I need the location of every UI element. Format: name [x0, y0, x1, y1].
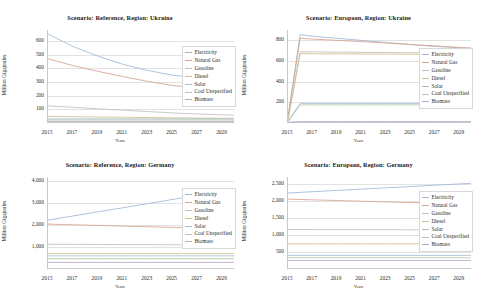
y-tick-label: 4,000 [32, 179, 44, 184]
legend-item[interactable]: Gasoline [185, 65, 232, 72]
x-axis-ticks: 20152017201920212023202520272029 [287, 129, 471, 137]
legend-swatch-icon [185, 241, 192, 242]
legend-swatch-icon [185, 52, 192, 53]
legend-item[interactable]: Gasoline [422, 67, 469, 74]
x-tick-label: 2015 [42, 275, 53, 281]
legend-item[interactable]: Solar [422, 83, 469, 90]
legend-swatch-icon [185, 218, 192, 219]
y-tick-label: 2,500 [272, 181, 284, 186]
legend-item[interactable]: Natural Gas [422, 202, 469, 209]
legend-swatch-icon [185, 92, 192, 93]
legend-item[interactable]: Diesel [422, 75, 469, 82]
legend-item[interactable]: Gasoline [422, 210, 469, 217]
legend-label: Natural Gas [431, 59, 457, 66]
legend-item[interactable]: Electricity [422, 194, 469, 201]
legend-item[interactable]: Biomass [422, 98, 469, 105]
y-tick-label: 600 [36, 38, 44, 43]
legend-item[interactable]: Electricity [185, 191, 232, 198]
x-tick-label: 2029 [216, 275, 227, 281]
x-tick-label: 2021 [116, 129, 127, 135]
legend-item[interactable]: Natural Gas [185, 57, 232, 64]
y-tick-label: 3,000 [32, 201, 44, 206]
legend: ElectricityNatural GasGasolineDieselSola… [182, 188, 236, 249]
y-axis-label: Million Gigajoules [241, 182, 247, 260]
legend-item[interactable]: Coal Unspecified [422, 90, 469, 97]
legend: ElectricityNatural GasGasolineDieselSola… [182, 46, 236, 107]
legend-swatch-icon [422, 70, 429, 71]
x-tick-label: 2021 [355, 129, 366, 135]
series-line [48, 106, 234, 115]
legend-label: Gasoline [431, 210, 450, 217]
x-tick-label: 2019 [331, 129, 342, 135]
x-tick-label: 2029 [453, 275, 464, 281]
x-axis-ticks: 20152017201920212023202520272029 [47, 275, 234, 283]
legend-item[interactable]: Coal Unspecified [422, 233, 469, 240]
y-tick-label: 600 [276, 58, 284, 63]
x-axis-label: Years [240, 138, 477, 143]
legend-item[interactable]: Biomass [185, 96, 232, 103]
legend-item[interactable]: Diesel [185, 73, 232, 80]
legend-swatch-icon [422, 101, 429, 102]
legend-label: Gasoline [431, 67, 450, 74]
legend-label: Coal Unspecified [194, 88, 232, 95]
legend: ElectricityNatural GasGasolineDieselSola… [419, 191, 473, 252]
legend-label: Biomass [194, 238, 213, 245]
legend-item[interactable]: Coal Unspecified [185, 88, 232, 95]
legend-swatch-icon [422, 62, 429, 63]
y-axis-ticks: 5001,0001,5002,0002,500 [266, 177, 286, 269]
chart-title: Scenario: European, Region: Ukraine [240, 14, 477, 21]
legend-label: Solar [431, 226, 442, 233]
legend-item[interactable]: Diesel [422, 218, 469, 225]
legend-item[interactable]: Coal Unspecified [185, 230, 232, 237]
legend-label: Biomass [194, 96, 213, 103]
x-tick-label: 2019 [91, 275, 102, 281]
x-tick-label: 2025 [166, 129, 177, 135]
legend-label: Diesel [194, 215, 208, 222]
legend-item[interactable]: Biomass [422, 241, 469, 248]
legend-swatch-icon [185, 210, 192, 211]
chart-title: Scenario: Reference, Region: Ukraine [0, 14, 240, 21]
y-tick-label: 500 [276, 249, 284, 254]
x-axis-ticks: 20152017201920212023202520272029 [287, 275, 471, 283]
x-tick-label: 2023 [380, 129, 391, 135]
x-tick-label: 2015 [282, 129, 293, 135]
y-axis-ticks: 1,0002,0003,0004,000 [26, 177, 46, 269]
legend-item[interactable]: Solar [185, 81, 232, 88]
chart-title: Scenario: European, Region: Germany [240, 161, 477, 168]
y-tick-label: 2,000 [32, 222, 44, 227]
x-tick-label: 2029 [216, 129, 227, 135]
x-tick-label: 2017 [306, 129, 317, 135]
y-tick-label: 100 [36, 107, 44, 112]
legend-item[interactable]: Solar [185, 223, 232, 230]
legend-item[interactable]: Solar [422, 226, 469, 233]
y-axis-label: Million Gigajoules [1, 36, 7, 114]
legend-swatch-icon [185, 84, 192, 85]
x-tick-label: 2025 [404, 275, 415, 281]
legend-item[interactable]: Gasoline [185, 207, 232, 214]
y-tick-label: 400 [276, 79, 284, 84]
legend-item[interactable]: Biomass [185, 238, 232, 245]
x-axis-ticks: 20152017201920212023202520272029 [47, 129, 234, 137]
legend-label: Electricity [194, 191, 216, 198]
legend-item[interactable]: Natural Gas [422, 59, 469, 66]
legend-swatch-icon [185, 234, 192, 235]
legend-item[interactable]: Diesel [185, 215, 232, 222]
legend-label: Solar [194, 223, 205, 230]
legend-item[interactable]: Electricity [185, 49, 232, 56]
y-tick-label: 500 [36, 52, 44, 57]
legend-swatch-icon [185, 99, 192, 100]
chart-panel-1: Scenario: European, Region: Ukraine Mill… [240, 0, 477, 147]
legend-item[interactable]: Electricity [422, 51, 469, 58]
x-tick-label: 2029 [453, 129, 464, 135]
y-tick-label: 2,000 [272, 198, 284, 203]
legend-label: Solar [431, 83, 442, 90]
legend-item[interactable]: Natural Gas [185, 199, 232, 206]
x-tick-label: 2021 [355, 275, 366, 281]
x-tick-label: 2017 [306, 275, 317, 281]
legend-label: Coal Unspecified [431, 90, 469, 97]
chart-grid: Scenario: Reference, Region: Ukraine Mil… [0, 0, 477, 293]
x-tick-label: 2027 [191, 129, 202, 135]
legend-label: Electricity [431, 51, 453, 58]
legend-swatch-icon [422, 197, 429, 198]
y-tick-label: 800 [276, 38, 284, 43]
